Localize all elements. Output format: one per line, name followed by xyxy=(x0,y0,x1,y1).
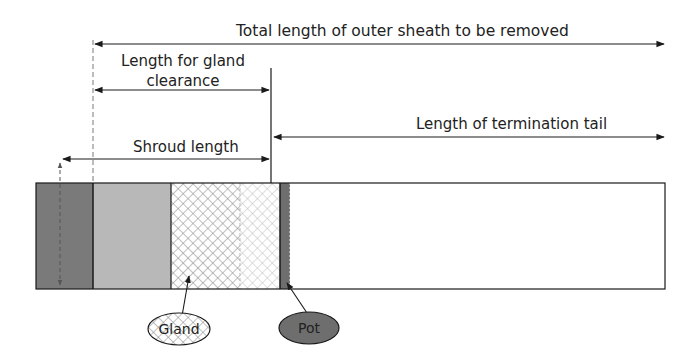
gland-body-light-segment xyxy=(240,183,280,289)
cable-termination-diagram xyxy=(0,0,695,364)
termination-tail-label: Length of termination tail xyxy=(416,115,607,133)
total-length-label: Total length of outer sheath to be remov… xyxy=(236,22,569,40)
gland-body-segment xyxy=(171,183,240,289)
pot-callout-label: Pot xyxy=(279,319,339,337)
pot-segment xyxy=(280,183,290,289)
termination-tail-segment xyxy=(290,183,665,289)
gland-clearance-label-line1: Length for gland xyxy=(118,52,248,70)
gland-clearance-label-line2: clearance xyxy=(118,72,248,90)
shroud-length-label: Shroud length xyxy=(133,138,239,156)
gland-callout-label: Gland xyxy=(149,320,209,338)
outer-sheath-end-segment xyxy=(36,183,93,289)
cable xyxy=(36,183,665,289)
sheath-light-segment xyxy=(93,183,171,289)
